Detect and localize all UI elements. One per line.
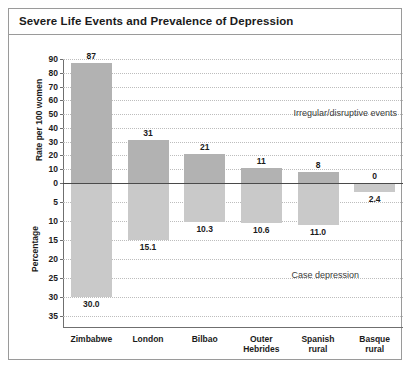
bar-value-label-lower: 2.4: [354, 194, 395, 204]
bar-group[interactable]: 1110.6: [241, 59, 282, 327]
x-axis-label: OuterHebrides: [233, 334, 290, 354]
gridline: [63, 221, 403, 222]
bar-group[interactable]: 2110.3: [184, 59, 225, 327]
y-axis-title-top: Rate per 100 women: [34, 70, 44, 170]
y-axis-tick-label: 30: [49, 137, 58, 147]
plot-inner: 90807060504030201005101520253035 8730.03…: [63, 59, 403, 327]
y-axis-tick-label: 10: [49, 164, 58, 174]
y-axis-tick-label: 50: [49, 109, 58, 119]
y-axis-tick-label: 30: [49, 292, 58, 302]
y-axis-tick-mark: [60, 59, 63, 60]
gridline: [63, 142, 403, 143]
bar-lower[interactable]: [184, 183, 225, 222]
bar-upper[interactable]: [184, 154, 225, 183]
y-axis-tick-mark: [60, 155, 63, 156]
x-axis-label-line: Bilbao: [176, 334, 233, 344]
y-axis-tick-label: 35: [49, 311, 58, 321]
x-axis-label-line: Spanish: [290, 334, 347, 344]
gridline: [63, 316, 403, 317]
y-axis-tick-mark: [60, 221, 63, 222]
plot-area: 90807060504030201005101520253035 8730.03…: [63, 59, 403, 327]
gridline: [63, 240, 403, 241]
zero-line: [63, 183, 403, 184]
y-axis-tick-label: 0: [53, 178, 58, 188]
y-axis-tick-mark: [60, 259, 63, 260]
x-axis-label-line: rural: [290, 344, 347, 354]
x-axis-label: Spanishrural: [290, 334, 347, 354]
y-axis-tick-label: 80: [49, 68, 58, 78]
bar-value-label-lower: 30.0: [71, 299, 112, 309]
bar-value-label-lower: 10.3: [184, 224, 225, 234]
bar-value-label-upper: 21: [184, 142, 225, 152]
bar-value-label-upper: 87: [71, 51, 112, 61]
bar-group[interactable]: 811.0: [298, 59, 339, 327]
y-axis-title-bottom: Percentage: [30, 199, 40, 299]
gridline: [63, 59, 403, 60]
y-axis-tick-label: 70: [49, 82, 58, 92]
y-axis-line: [63, 59, 64, 327]
y-axis-tick-label: 25: [49, 273, 58, 283]
bar-lower[interactable]: [71, 183, 112, 297]
bar-upper[interactable]: [298, 172, 339, 183]
x-axis-label: Basquerural: [346, 334, 403, 354]
bar-value-label-lower: 11.0: [298, 227, 339, 237]
gridline: [63, 169, 403, 170]
bar-value-label-upper: 8: [298, 160, 339, 170]
y-axis-tick-mark: [60, 278, 63, 279]
bar-value-label-lower: 10.6: [241, 225, 282, 235]
chart-frame: Severe Life Events and Prevalence of Dep…: [8, 8, 402, 360]
bar-group[interactable]: 3115.1: [128, 59, 169, 327]
x-axis-line: [63, 327, 403, 328]
y-axis-tick-label: 40: [49, 123, 58, 133]
x-axis-label-line: rural: [346, 344, 403, 354]
chart-title: Severe Life Events and Prevalence of Dep…: [19, 15, 293, 27]
y-axis-tick-mark: [60, 169, 63, 170]
bar-value-label-upper: 11: [241, 156, 282, 166]
y-axis-tick-label: 60: [49, 95, 58, 105]
y-axis-tick-mark: [60, 73, 63, 74]
bar-upper[interactable]: [241, 168, 282, 183]
gridline: [63, 87, 403, 88]
y-axis-tick-mark: [60, 297, 63, 298]
y-axis-tick-label: 5: [53, 197, 58, 207]
gridline: [63, 259, 403, 260]
bar-group[interactable]: 02.4: [354, 59, 395, 327]
x-axis-label-line: London: [120, 334, 177, 344]
y-axis-tick-label: 10: [49, 216, 58, 226]
y-axis-tick-label: 90: [49, 54, 58, 64]
y-axis-tick-mark: [60, 87, 63, 88]
y-axis-tick-mark: [60, 240, 63, 241]
y-axis-tick-mark: [60, 128, 63, 129]
bar-value-label-lower: 15.1: [128, 242, 169, 252]
y-axis-tick-label: 20: [49, 254, 58, 264]
annotation-case-depression: Case depression: [291, 270, 359, 280]
gridline: [63, 297, 403, 298]
bar-lower[interactable]: [354, 183, 395, 192]
chart-title-bar: Severe Life Events and Prevalence of Dep…: [9, 9, 401, 35]
gridline: [63, 128, 403, 129]
annotation-irregular-events: Irregular/disruptive events: [293, 108, 397, 118]
y-axis-tick-mark: [60, 316, 63, 317]
gridline: [63, 202, 403, 203]
gridline: [63, 155, 403, 156]
x-axis-label-line: Hebrides: [233, 344, 290, 354]
bar-lower[interactable]: [298, 183, 339, 225]
bar-group[interactable]: 8730.0: [71, 59, 112, 327]
x-axis-label-line: Basque: [346, 334, 403, 344]
bar-value-label-upper: 0: [354, 171, 395, 181]
bar-upper[interactable]: [71, 63, 112, 183]
x-axis-label-line: Outer: [233, 334, 290, 344]
y-axis-tick-mark: [60, 142, 63, 143]
bar-lower[interactable]: [241, 183, 282, 223]
x-axis-label: Zimbabwe: [63, 334, 120, 344]
x-axis-label: Bilbao: [176, 334, 233, 344]
gridline: [63, 73, 403, 74]
bar-lower[interactable]: [128, 183, 169, 240]
y-axis-tick-mark: [60, 114, 63, 115]
y-axis-tick-label: 15: [49, 235, 58, 245]
y-axis-tick-mark: [60, 202, 63, 203]
gridline: [63, 100, 403, 101]
bar-value-label-upper: 31: [128, 128, 169, 138]
bar-upper[interactable]: [128, 140, 169, 183]
x-axis-label: London: [120, 334, 177, 344]
